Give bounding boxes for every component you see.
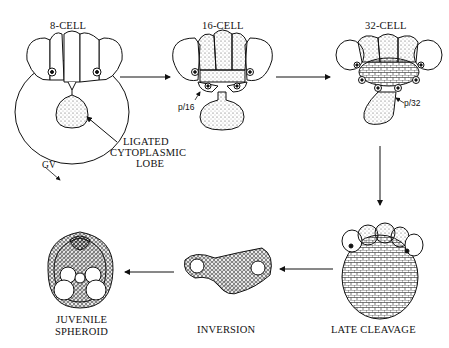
label-late-cleavage: LATE CLEAVAGE	[331, 324, 416, 335]
label-inversion: INVERSION	[197, 324, 255, 335]
label-16-cell: 16-CELL	[202, 20, 244, 31]
stage-juvenile-spheroid-drawing	[48, 232, 113, 308]
label-32-cell: 32-CELL	[365, 20, 407, 31]
stage-8-cell-drawing	[15, 31, 129, 164]
embryo-development-diagram	[0, 0, 449, 348]
label-juvenile: JUVENILE	[56, 314, 107, 325]
label-lobe: LOBE	[136, 158, 164, 169]
stage-late-cleavage-drawing	[342, 223, 423, 319]
label-8-cell: 8-CELL	[50, 20, 86, 31]
label-spheroid: SPHEROID	[55, 326, 108, 337]
label-p16: p/16	[178, 102, 195, 112]
label-p32: p/32	[404, 98, 421, 108]
label-gv: GV	[42, 160, 56, 171]
label-ligated: LIGATED	[123, 136, 169, 147]
stage-32-cell-drawing	[336, 34, 442, 124]
stage-16-cell-drawing	[173, 30, 273, 130]
stage-inversion-drawing	[184, 248, 271, 294]
label-cytoplasmic: CYTOPLASMIC	[110, 147, 186, 158]
